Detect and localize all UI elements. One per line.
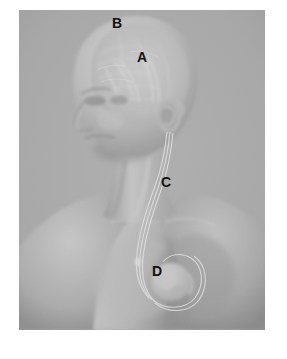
figure-root: B A C D (0, 0, 287, 359)
medical-illustration-image: B A C D (19, 10, 265, 330)
annotation-label-d: D (152, 264, 162, 278)
annotation-label-b: B (112, 16, 122, 30)
annotation-label-a: A (137, 50, 147, 64)
annotation-label-c: C (161, 175, 171, 189)
